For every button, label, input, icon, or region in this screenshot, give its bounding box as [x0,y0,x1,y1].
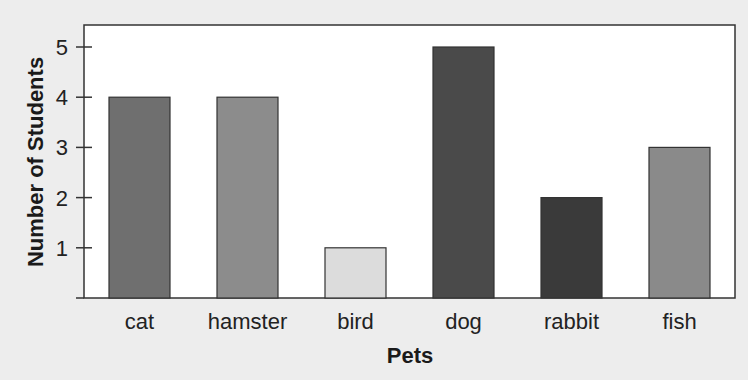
y-tick-label: 1 [56,236,68,261]
bar-hamster [217,97,278,298]
x-tick-label-cat: cat [125,309,154,334]
bar-rabbit [541,198,602,298]
x-axis-labels: cathamsterbirddograbbitfish [125,309,697,334]
bar-chart: 12345 cathamsterbirddograbbitfish Number… [0,0,748,380]
plot-area [84,25,735,298]
bar-fish [649,147,710,298]
x-tick-label-rabbit: rabbit [544,309,599,334]
y-tick-label: 5 [56,35,68,60]
x-tick-label-fish: fish [662,309,696,334]
y-axis-title: Number of Students [23,57,48,267]
x-tick-label-hamster: hamster [208,309,287,334]
x-tick-label-bird: bird [337,309,374,334]
x-tick-label-dog: dog [445,309,482,334]
bar-bird [325,248,386,298]
bar-dog [433,47,494,298]
x-axis-title: Pets [387,343,433,368]
y-tick-label: 4 [56,85,68,110]
y-tick-label: 3 [56,135,68,160]
bar-cat [109,97,170,298]
y-tick-label: 2 [56,186,68,211]
